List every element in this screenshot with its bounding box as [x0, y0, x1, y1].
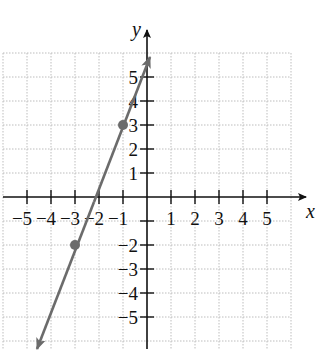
- svg-text:−4: −4: [118, 283, 139, 304]
- svg-text:3: 3: [129, 115, 139, 136]
- y-axis-label: y: [130, 18, 141, 41]
- x-axis-label: x: [305, 200, 315, 222]
- svg-text:−5: −5: [12, 208, 32, 229]
- svg-text:−5: −5: [118, 307, 138, 328]
- point-neg3-neg2: [70, 240, 80, 250]
- svg-text:2: 2: [129, 139, 139, 160]
- svg-text:5: 5: [129, 67, 139, 88]
- svg-text:4: 4: [238, 208, 248, 229]
- svg-text:−3: −3: [60, 208, 80, 229]
- svg-text:5: 5: [262, 208, 272, 229]
- coordinate-graph: −5 −4 −3 −2 −1 1 2 3 4 5 5 4 3 2 1 −2 −3…: [0, 0, 319, 352]
- point-neg1-3: [118, 120, 128, 130]
- svg-text:−4: −4: [36, 208, 57, 229]
- x-tick-labels: −5 −4 −3 −2 −1 1 2 3 4 5: [12, 208, 272, 229]
- svg-text:2: 2: [190, 208, 200, 229]
- svg-text:−1: −1: [108, 208, 128, 229]
- svg-text:3: 3: [214, 208, 224, 229]
- svg-text:1: 1: [166, 208, 176, 229]
- svg-text:−3: −3: [118, 259, 138, 280]
- svg-text:−2: −2: [118, 235, 138, 256]
- svg-text:1: 1: [129, 163, 139, 184]
